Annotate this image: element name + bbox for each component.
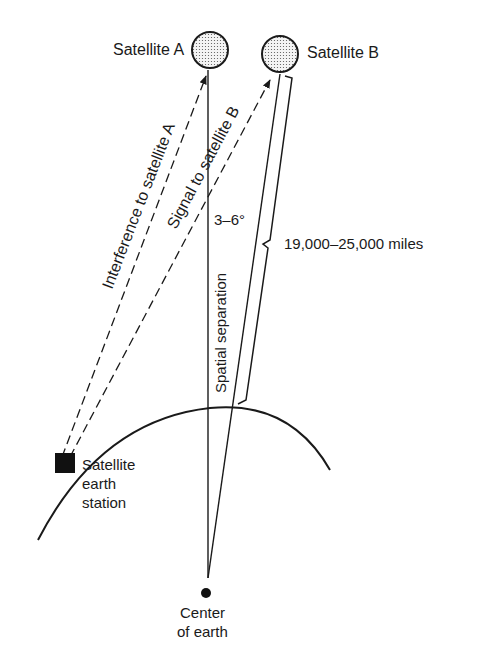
satellite-b-icon xyxy=(262,36,298,72)
earth-station-label-3: station xyxy=(82,494,126,511)
diagram-canvas: Satellite A Satellite B Satellite earth … xyxy=(0,0,477,659)
satellite-a-label: Satellite A xyxy=(113,41,184,58)
satellite-b-label: Satellite B xyxy=(307,44,379,61)
interference-path xyxy=(62,76,206,457)
angle-label: 3–6° xyxy=(214,211,245,228)
earth-surface-arc xyxy=(38,407,330,540)
spatial-separation-label: Spatial separation xyxy=(212,273,229,393)
earth-station-icon xyxy=(55,453,75,473)
center-of-earth-icon xyxy=(201,588,211,598)
earth-station-label-1: Satellite xyxy=(82,456,135,473)
center-label-2: of earth xyxy=(177,623,228,640)
distance-label: 19,000–25,000 miles xyxy=(284,235,423,252)
earth-station-label-2: earth xyxy=(82,475,116,492)
interference-label: Interference to satellite A xyxy=(99,120,178,291)
satellite-a-icon xyxy=(192,32,228,68)
center-label-1: Center xyxy=(180,604,225,621)
